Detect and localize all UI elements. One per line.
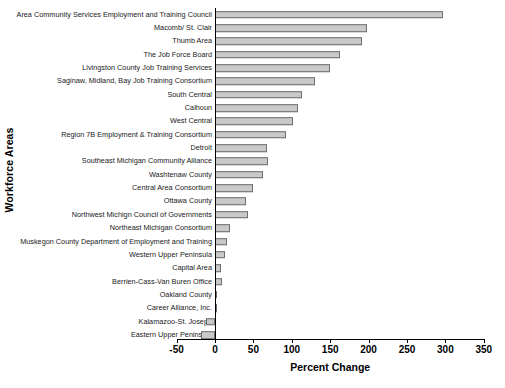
bar-row: Macomb/ St. Clair (18, 21, 505, 34)
bar-track (18, 288, 505, 301)
x-axis-tick-label: 50 (248, 344, 259, 355)
bar-track (18, 141, 505, 154)
bar-row: Thumb Area (18, 35, 505, 48)
bar-row: Northeast Michigan Consortium (18, 222, 505, 235)
bar-row: Berrien-Cass-Van Buren Office (18, 275, 505, 288)
x-axis-tick-label: -50 (169, 344, 183, 355)
bar (215, 211, 248, 219)
bar-row: Area Community Services Employment and T… (18, 8, 505, 21)
bar (215, 51, 340, 59)
bar-row: West Central (18, 115, 505, 128)
bar-row: Washtenaw County (18, 168, 505, 181)
bar-track (18, 168, 505, 181)
bar-row: Saginaw, Midland, Bay Job Training Conso… (18, 75, 505, 88)
bar-row: Kalamazoo-St. Joseph (18, 315, 505, 328)
bar-row: Ottawa County (18, 195, 505, 208)
x-axis-tick-label: 300 (437, 344, 454, 355)
bar-row: South Central (18, 88, 505, 101)
bar-row: Career Alliance, Inc. (18, 302, 505, 315)
plot-area: Area Community Services Employment and T… (18, 8, 505, 338)
bar-row: Muskegon County Department of Employment… (18, 235, 505, 248)
bar-row: Livingston County Job Training Services (18, 61, 505, 74)
bar (215, 91, 302, 99)
bar (215, 118, 293, 126)
bar-track (18, 262, 505, 275)
bar (215, 198, 246, 206)
bar (215, 184, 253, 192)
bar-chart: Workforce Areas Area Community Services … (0, 0, 505, 388)
bar-row: Detroit (18, 141, 505, 154)
x-axis: -50050100150200250300350 Percent Change (18, 339, 505, 388)
bar (215, 251, 225, 259)
bar-track (18, 248, 505, 261)
x-axis-tick (330, 339, 331, 343)
bar-track (18, 235, 505, 248)
bar (215, 11, 443, 19)
bar (215, 158, 268, 166)
x-axis-tick (369, 339, 370, 343)
bar-track (18, 88, 505, 101)
x-axis-tick (445, 339, 446, 343)
x-axis-tick-label: 200 (360, 344, 377, 355)
bar-track (18, 101, 505, 114)
bar (215, 131, 286, 139)
bar-track (18, 128, 505, 141)
bar-track (18, 302, 505, 315)
bar (215, 104, 298, 112)
x-axis-tick-label: 150 (322, 344, 339, 355)
bar-row: Capital Area (18, 262, 505, 275)
bar (215, 24, 367, 32)
x-axis-title: Percent Change (290, 361, 370, 373)
bar-track (18, 315, 505, 328)
bar-row: Southeast Michigan Community Alliance (18, 155, 505, 168)
bar-row: Oakland County (18, 288, 505, 301)
bar-track (18, 35, 505, 48)
x-axis-tick-label: 0 (212, 344, 218, 355)
bar-track (18, 75, 505, 88)
bar-row: Northwest Michign Council of Governments (18, 208, 505, 221)
bar (215, 238, 227, 246)
y-axis-title-text: Workforce Areas (3, 128, 15, 213)
bar-track (18, 208, 505, 221)
zero-axis-line (215, 8, 216, 339)
x-axis-tick (215, 339, 216, 343)
bar (201, 331, 215, 339)
bar-track (18, 155, 505, 168)
bar (215, 171, 263, 179)
bar (215, 144, 267, 152)
x-axis-tick-label: 100 (283, 344, 300, 355)
bar-track (18, 115, 505, 128)
bar (215, 38, 362, 46)
bar-track (18, 21, 505, 34)
x-axis-tick (253, 339, 254, 343)
bar-row: Calhoun (18, 101, 505, 114)
bar-rows: Area Community Services Employment and T… (18, 8, 505, 342)
bar-row: Central Area Consortium (18, 181, 505, 194)
bar-track (18, 61, 505, 74)
x-axis-tick (177, 339, 178, 343)
bar (215, 224, 230, 232)
bar-track (18, 181, 505, 194)
bar (206, 318, 215, 326)
x-axis-tick (407, 339, 408, 343)
bar-track (18, 195, 505, 208)
bar (215, 78, 315, 86)
x-axis-tick (484, 339, 485, 343)
x-axis-tick-label: 350 (475, 344, 492, 355)
bar-track (18, 8, 505, 21)
bar-track (18, 222, 505, 235)
bar-track (18, 48, 505, 61)
bar-track (18, 275, 505, 288)
x-axis-tick-label: 250 (399, 344, 416, 355)
bar-row: Region 7B Employment & Training Consorti… (18, 128, 505, 141)
y-axis-title: Workforce Areas (0, 0, 18, 340)
bar (215, 64, 330, 72)
bar-row: The Job Force Board (18, 48, 505, 61)
x-axis-tick (292, 339, 293, 343)
bar-row: Western Upper Peninsula (18, 248, 505, 261)
